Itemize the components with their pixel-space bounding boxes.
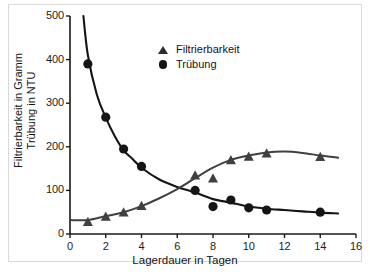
data-point-filtrierbarkeit bbox=[190, 170, 200, 179]
data-point-truebung bbox=[226, 195, 235, 204]
data-point-truebung bbox=[137, 162, 146, 171]
legend-item-filtrierbarkeit: Filtrierbarkeit bbox=[156, 42, 240, 57]
x-tick-label: 8 bbox=[201, 240, 225, 252]
triangle-up-icon bbox=[156, 43, 170, 57]
x-tick-label: 2 bbox=[94, 240, 118, 252]
y-axis-title: Filtrierbarkeit in Gramm Trübung in NTU bbox=[12, 21, 37, 201]
data-point-truebung bbox=[244, 203, 253, 212]
legend-label-truebung: Trübung bbox=[176, 57, 217, 72]
x-tick-label: 6 bbox=[165, 240, 189, 252]
y-tick-label: 0 bbox=[30, 227, 64, 239]
legend-item-truebung: Trübung bbox=[156, 57, 240, 72]
y-axis-title-line1: Filtrierbarkeit in Gramm bbox=[12, 21, 25, 201]
y-axis-title-line2: Trübung in NTU bbox=[24, 21, 37, 201]
circle-icon bbox=[156, 58, 170, 72]
data-point-truebung bbox=[316, 208, 325, 217]
data-point-truebung bbox=[83, 59, 92, 68]
data-point-truebung bbox=[191, 186, 200, 195]
filtrierbarkeit-data-markers bbox=[83, 148, 325, 226]
data-point-filtrierbarkeit bbox=[83, 217, 93, 226]
x-tick-label: 12 bbox=[273, 240, 297, 252]
x-tick-label: 16 bbox=[344, 240, 368, 252]
truebung-data-markers bbox=[83, 59, 325, 216]
data-point-truebung bbox=[208, 202, 217, 211]
y-tick-label: 500 bbox=[30, 9, 64, 21]
x-axis-title: Lagerdauer in Tagen bbox=[0, 254, 370, 266]
data-point-truebung bbox=[101, 113, 110, 122]
data-point-truebung bbox=[119, 144, 128, 153]
legend-label-filtrierbarkeit: Filtrierbarkeit bbox=[176, 42, 240, 57]
data-point-filtrierbarkeit bbox=[208, 173, 218, 182]
x-tick-label: 4 bbox=[130, 240, 154, 252]
x-tick-label: 14 bbox=[308, 240, 332, 252]
data-point-truebung bbox=[262, 205, 271, 214]
x-tick-label: 0 bbox=[58, 240, 82, 252]
x-tick-label: 10 bbox=[237, 240, 261, 252]
chart-figure: 0100200300400500 0246810121416 Lagerdaue… bbox=[0, 0, 370, 276]
legend: Filtrierbarkeit Trübung bbox=[156, 42, 240, 72]
